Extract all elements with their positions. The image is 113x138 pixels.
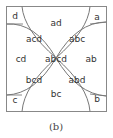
region-label-c: c <box>13 96 18 105</box>
region-label-abd: abd <box>69 76 86 85</box>
region-label-d: d <box>12 12 18 21</box>
region-label-bcd: bcd <box>26 76 42 85</box>
region-label-ab: ab <box>85 55 96 64</box>
region-label-b: b <box>94 95 100 104</box>
region-label-a: a <box>94 13 100 22</box>
region-label-ad: ad <box>50 19 61 28</box>
figure-caption: (b) <box>49 121 63 132</box>
region-label-acd: acd <box>26 35 42 44</box>
region-label-bc: bc <box>51 90 62 99</box>
region-label-abc: abc <box>69 35 85 44</box>
region-label-abcd: abcd <box>45 55 67 64</box>
region-label-cd: cd <box>16 55 27 64</box>
